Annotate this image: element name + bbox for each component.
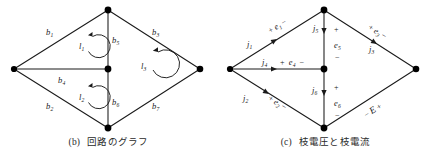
branch-label-b7: b7 (152, 102, 159, 111)
loop-label-l3: l3 (141, 62, 146, 71)
voltage-group-e4: + e4 − (280, 58, 304, 67)
arrowhead-j5 (321, 28, 326, 34)
panel-circuit-graph: b1 b2 b3 b4 b5 b6 b7 l1 l2 l3 (b)回路のグラフ (0, 0, 217, 163)
polarity-plus-e6: + (334, 84, 339, 92)
polarity-minus-e5: − (335, 54, 340, 62)
panel-b-caption: (b)回路のグラフ (0, 134, 217, 148)
node-top (321, 7, 328, 14)
polarity-plus-e5: + (334, 26, 339, 34)
panel-b-tag: (b) (69, 137, 81, 147)
polarity-plus-e4: + (280, 58, 285, 67)
edge-lower-right (108, 69, 200, 128)
current-label-j3: j3 (369, 45, 374, 54)
current-label-j4: j4 (262, 58, 267, 67)
node-right (413, 66, 420, 73)
node-left (11, 66, 17, 72)
panel-c-caption-text: 枝電圧と枝電流 (299, 137, 370, 147)
node-bottom (105, 125, 112, 132)
node-center (321, 66, 328, 73)
node-bottom (321, 125, 328, 132)
panel-b-caption-text: 回路のグラフ (87, 137, 148, 147)
node-center (105, 66, 112, 73)
branch-label-b3: b3 (152, 28, 159, 37)
node-top (105, 7, 112, 14)
current-label-j1: j1 (247, 40, 252, 49)
loop-label-l2: l2 (79, 93, 84, 102)
panel-c-caption: (c)枝電圧と枝電流 (217, 134, 434, 148)
current-label-j5: j5 (313, 24, 318, 33)
loop-arrow-l3 (153, 46, 180, 78)
branch-label-b6: b6 (112, 98, 119, 107)
branch-label-b2: b2 (46, 102, 53, 111)
figure-container: b1 b2 b3 b4 b5 b6 b7 l1 l2 l3 (b)回路のグラフ (0, 0, 434, 163)
branch-label-b4: b4 (58, 76, 65, 85)
current-label-j2: j2 (243, 94, 248, 103)
panel-branch-voltage-current: j1 + e1 − j2 + e2 − + e3 − j3 j4 + e4 − … (217, 0, 434, 163)
edge-upper-right (108, 10, 200, 69)
arrowhead-j6 (321, 90, 326, 96)
node-right (197, 66, 204, 73)
polarity-minus-e4: − (300, 58, 305, 67)
branch-label-b1: b1 (46, 28, 53, 37)
voltage-label-e5: e5 (334, 41, 341, 50)
loop-arrow-l1 (88, 31, 110, 58)
panel-c-tag: (c) (281, 137, 292, 147)
polarity-minus-e6: − (335, 112, 340, 120)
node-left (227, 66, 233, 72)
voltage-label-e6: e6 (334, 99, 341, 108)
loop-arrow-l2 (88, 82, 110, 109)
edge-upper-left (14, 10, 108, 69)
current-label-j6: j6 (312, 86, 317, 95)
branch-label-b5: b5 (112, 36, 119, 45)
loop-label-l1: l1 (79, 42, 84, 51)
arrowhead-j4 (271, 66, 277, 71)
